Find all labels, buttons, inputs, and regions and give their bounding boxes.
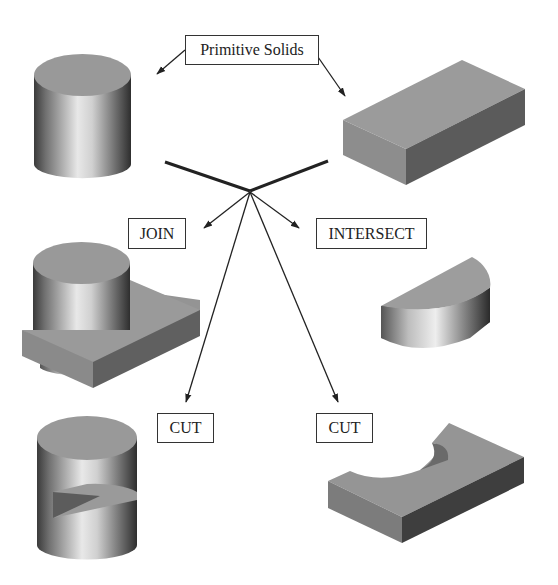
intersect-label: INTERSECT [316,218,427,249]
primitive-solids-label: Primitive Solids [185,35,319,65]
cut-left-label: CUT [157,413,214,443]
join-result-solid [22,242,200,388]
primitive-box [343,60,525,185]
boolean-operations-diagram [0,0,558,585]
intersect-result-solid [381,257,490,348]
primitive-cylinder [34,54,131,178]
cut-cylinder-result-solid [37,416,137,560]
join-label: JOIN [128,218,186,249]
cut-right-label: CUT [316,413,373,443]
